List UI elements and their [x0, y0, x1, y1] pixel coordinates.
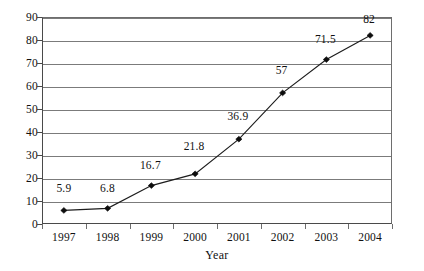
gridline [43, 64, 391, 65]
x-tick-mark [86, 224, 87, 229]
point-label-2001: 36.9 [215, 110, 261, 122]
y-tick-label-30: 30 [0, 150, 38, 162]
y-tick-label-10: 10 [0, 196, 38, 208]
y-tick-mark [37, 132, 42, 133]
y-tick-label-0: 0 [0, 219, 38, 231]
x-tick-mark [130, 224, 131, 229]
y-tick-mark [37, 40, 42, 41]
point-label-2003: 71.5 [302, 33, 348, 45]
y-tick-mark [37, 109, 42, 110]
line-chart: 90 80 70 60 50 40 30 20 10 0 1997 1998 1… [0, 0, 424, 271]
y-tick-label-50: 50 [0, 104, 38, 116]
y-tick-label-80: 80 [0, 35, 38, 47]
gridline [43, 87, 391, 88]
point-label-1998: 6.8 [85, 182, 131, 194]
y-tick-mark [37, 86, 42, 87]
y-tick-mark [37, 178, 42, 179]
x-tick-mark [348, 224, 349, 229]
y-tick-label-20: 20 [0, 173, 38, 185]
y-tick-mark [37, 155, 42, 156]
point-label-1999: 16.7 [127, 159, 173, 171]
point-label-2002: 57 [259, 64, 305, 76]
y-tick-label-70: 70 [0, 58, 38, 70]
y-tick-label-40: 40 [0, 127, 38, 139]
x-tick-mark [173, 224, 174, 229]
gridline [43, 156, 391, 157]
point-label-2004: 82 [346, 13, 392, 25]
x-axis-title: Year [42, 249, 392, 262]
y-tick-label-90: 90 [0, 12, 38, 24]
y-tick-mark [37, 17, 42, 18]
gridline [43, 18, 391, 19]
x-tick-mark [392, 224, 393, 229]
gridline [43, 202, 391, 203]
point-label-1997: 5.9 [41, 182, 87, 194]
x-tick-mark [42, 224, 43, 229]
y-tick-mark [37, 201, 42, 202]
x-tick-mark [305, 224, 306, 229]
gridline [43, 179, 391, 180]
y-tick-label-60: 60 [0, 81, 38, 93]
gridline [43, 133, 391, 134]
x-tick-label-2004: 2004 [343, 231, 397, 243]
x-tick-mark [217, 224, 218, 229]
point-label-2000: 21.8 [171, 140, 217, 152]
y-tick-mark [37, 63, 42, 64]
x-tick-mark [261, 224, 262, 229]
